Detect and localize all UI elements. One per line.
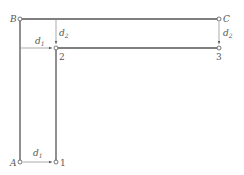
point-c-marker xyxy=(217,17,221,21)
point-a-marker xyxy=(18,160,22,164)
label-1: 1 xyxy=(60,158,66,168)
outer-polyline-abc xyxy=(20,19,219,162)
label-3: 3 xyxy=(216,52,222,62)
dim-d1-mid: d1 xyxy=(35,36,45,47)
offset-polyline-123 xyxy=(56,48,219,162)
offset-lines-diagram: A B C 1 2 3 d1 d1 d2 d2 xyxy=(0,0,244,175)
label-c: C xyxy=(223,14,230,24)
dim-d2-right: d2 xyxy=(223,28,233,39)
point-1-marker xyxy=(54,160,58,164)
point-b-marker xyxy=(18,17,22,21)
dim-d1-bottom: d1 xyxy=(33,148,43,159)
label-2: 2 xyxy=(59,52,65,62)
dim-d2-left: d2 xyxy=(59,28,69,39)
point-3-marker xyxy=(217,46,221,50)
label-b: B xyxy=(9,14,17,24)
label-a: A xyxy=(9,158,17,168)
point-2-marker xyxy=(54,46,58,50)
